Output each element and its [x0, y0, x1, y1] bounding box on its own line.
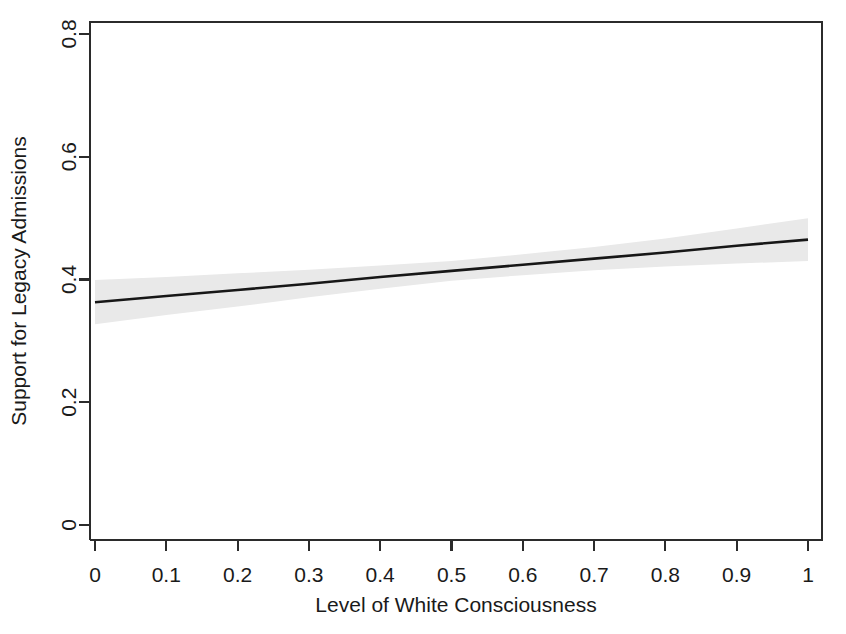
y-tick-label: 0.4 [57, 265, 80, 295]
x-tick-label: 0.7 [579, 563, 608, 586]
x-tick-label: 0.4 [366, 563, 396, 586]
y-tick-label: 0 [57, 519, 80, 531]
x-tick-label: 0.5 [437, 563, 466, 586]
x-axis-title: Level of White Consciousness [315, 593, 596, 616]
x-tick-label: 0.9 [722, 563, 751, 586]
x-tick-label: 0.1 [152, 563, 181, 586]
x-tick-label: 0.2 [223, 563, 252, 586]
x-tick-label: 0.3 [294, 563, 323, 586]
y-tick-label: 0.6 [57, 142, 80, 171]
x-tick-label: 1 [802, 563, 814, 586]
x-tick-label: 0 [89, 563, 101, 586]
y-tick-label: 0.2 [57, 388, 80, 417]
y-tick-label: 0.8 [57, 19, 80, 48]
x-tick-label: 0.8 [651, 563, 680, 586]
chart-figure: 00.20.40.60.8 00.10.20.30.40.50.60.70.80… [0, 0, 846, 634]
x-tick-label: 0.6 [508, 563, 537, 586]
y-axis-title: Support for Legacy Admissions [7, 136, 30, 426]
plot-canvas: 00.20.40.60.8 00.10.20.30.40.50.60.70.80… [0, 0, 846, 634]
